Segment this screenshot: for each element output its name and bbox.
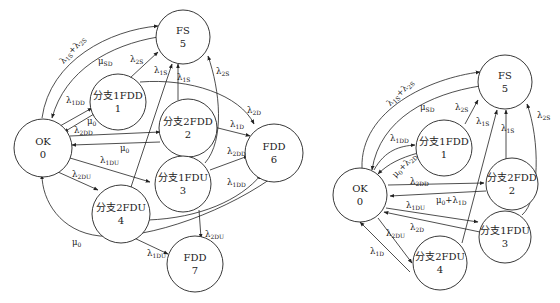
edge-label: λ2DD xyxy=(74,125,93,136)
edge-label: μSD xyxy=(420,102,435,113)
edge-label: λ1DU xyxy=(406,200,425,211)
edge-label: λ1DU xyxy=(100,155,119,166)
edge-4-0 xyxy=(360,222,410,272)
node-name: FDD xyxy=(263,141,286,152)
node-name: FDD xyxy=(184,252,207,263)
edge-label: λ2DU xyxy=(386,228,405,239)
edge-label: λ1DD xyxy=(390,133,409,144)
left-node-branch1fdd-1: 分支1FDD 1 xyxy=(90,74,146,130)
edge-label: λ1DD xyxy=(227,177,246,188)
left-node-fdd-6: FDD 6 xyxy=(245,124,303,182)
node-number: 0 xyxy=(40,149,46,160)
left-node-ok-0: OK 0 xyxy=(14,119,72,177)
left-node-fs-5: FS 5 xyxy=(156,10,210,64)
left-node-branch2fdu-4: 分支2FDU 4 xyxy=(92,185,150,243)
edge-label: μ0+λ1D xyxy=(436,195,467,206)
edge-label: λ1S xyxy=(154,65,167,76)
node-name: OK xyxy=(35,136,51,147)
right-node-fs-5: FS 5 xyxy=(478,55,532,109)
edge-label: λ1S xyxy=(476,116,489,127)
edge-label: μ0 xyxy=(72,237,82,248)
left-diagram: FS 5 分支1FDD 1 OK 0 分支2FDD 2 FDD 6 分支1FDU… xyxy=(14,10,303,292)
node-number: 1 xyxy=(441,149,447,160)
node-name: 分支1FDD xyxy=(93,90,142,101)
node-name: FS xyxy=(176,25,190,36)
node-number: 5 xyxy=(180,38,186,49)
edge-label: λ2DD xyxy=(227,146,246,157)
edge-label: μ0 xyxy=(120,143,130,154)
edge-label: λ2DU xyxy=(72,169,91,180)
node-number: 0 xyxy=(357,196,363,207)
left-node-fdd-7: FDD 7 xyxy=(167,236,223,292)
edge-label: λ1D xyxy=(370,246,384,257)
edge-label: λ1S+λ2S xyxy=(384,77,416,109)
node-name: 分支1FDU xyxy=(480,225,530,236)
edge-0-2 xyxy=(388,183,484,185)
right-diagram: FS 5 分支1FDD 1 OK 0 分支2FDD 2 分支1FDU 3 分支2… xyxy=(333,55,550,290)
edge-label: λ2S xyxy=(130,54,143,65)
node-name: 分支2FDD xyxy=(487,172,536,183)
edge-label: λ2DD xyxy=(410,176,429,187)
left-node-branch1fdu-3: 分支1FDU 3 xyxy=(155,156,211,212)
node-number: 1 xyxy=(115,103,121,114)
edge-3-6 xyxy=(210,156,248,170)
left-node-branch2fdd-2: 分支2FDD 2 xyxy=(159,99,217,157)
node-name: 分支1FDD xyxy=(419,136,468,147)
right-node-branch1fdd-1: 分支1FDD 1 xyxy=(416,120,472,176)
edge-label: λ1DD xyxy=(66,95,85,106)
node-name: 分支2FDU xyxy=(96,202,146,213)
edge-label: λ1S xyxy=(177,72,190,83)
markov-state-diagrams: FS 5 分支1FDD 1 OK 0 分支2FDD 2 FDD 6 分支1FDU… xyxy=(0,0,560,303)
edge-3-7 xyxy=(199,210,201,238)
right-node-branch1fdu-3: 分支1FDU 3 xyxy=(479,211,531,263)
edge-label: λ2DU xyxy=(205,229,224,240)
node-number: 2 xyxy=(185,129,191,140)
right-node-ok-0: OK 0 xyxy=(333,168,387,222)
node-number: 4 xyxy=(437,264,443,275)
edge-label: λ2S xyxy=(537,110,550,121)
edge-label: λ2D xyxy=(247,105,261,116)
node-number: 2 xyxy=(509,185,515,196)
node-number: 3 xyxy=(180,185,186,196)
edge-label: λ2S xyxy=(216,66,229,77)
node-name: OK xyxy=(352,183,368,194)
edge-label: λ1S xyxy=(501,123,514,134)
edge-label: λ2D xyxy=(410,222,424,233)
node-number: 3 xyxy=(502,238,508,249)
node-number: 5 xyxy=(502,83,508,94)
edge-label: λ1D xyxy=(230,119,244,130)
node-name: 分支2FDD xyxy=(163,116,212,127)
node-name: 分支1FDU xyxy=(158,172,208,183)
node-number: 7 xyxy=(192,265,198,276)
edge-2-0 xyxy=(72,142,160,145)
edge-label: λ2S xyxy=(455,102,468,113)
node-name: 分支2FDU xyxy=(415,251,465,262)
node-number: 6 xyxy=(271,154,277,165)
node-number: 4 xyxy=(118,215,124,226)
right-node-branch2fdu-4: 分支2FDU 4 xyxy=(413,236,467,290)
edge-label: μSD xyxy=(98,56,113,67)
node-name: FS xyxy=(498,70,512,81)
right-node-branch2fdd-2: 分支2FDD 2 xyxy=(486,158,538,210)
edge-label: λ1DU xyxy=(147,248,166,259)
